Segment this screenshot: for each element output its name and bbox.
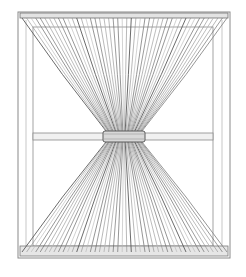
curtain-pleat-stroke <box>118 142 123 252</box>
curtain-pleat-stroke <box>68 142 114 252</box>
curtain-pleat-stroke <box>58 18 112 131</box>
curtain-rod <box>20 13 228 18</box>
curtain-pleat-stroke <box>49 142 111 252</box>
curtain-pleat-stroke <box>134 142 181 252</box>
curtain-pleat-stroke <box>139 18 209 131</box>
curtain-pleat-stroke <box>45 142 110 252</box>
curtain-pleat-stroke <box>138 18 204 131</box>
curtain-pleat-stroke <box>77 142 116 252</box>
curtain-pleat-stroke <box>118 18 123 131</box>
curtain-pleat-stroke <box>134 18 181 131</box>
curtain-pleat-stroke <box>22 142 106 252</box>
curtain-pleat-stroke <box>77 18 116 131</box>
curtain-pleat-stroke <box>49 18 111 131</box>
curtain-pleat-stroke <box>81 142 116 252</box>
curtain-pleat-stroke <box>45 18 110 131</box>
curtain-upper-fan <box>22 18 227 131</box>
curtain-tie-band <box>103 131 145 142</box>
curtain-pleat-stroke <box>40 18 109 131</box>
curtain-pleat-stroke <box>136 142 191 252</box>
curtain-pleat-stroke <box>40 142 109 252</box>
curtain-pleat-stroke <box>36 142 109 252</box>
curtain-pleat-stroke <box>58 142 112 252</box>
curtain-pleat-stroke <box>31 18 108 131</box>
curtain-pleat-stroke <box>68 18 114 131</box>
curtain-pleat-stroke <box>22 18 106 131</box>
window-curtain-drawing <box>0 0 246 277</box>
curtain-pleat-stroke <box>138 142 204 252</box>
curtain-pleat-stroke <box>27 142 107 252</box>
curtain-pleat-stroke <box>31 142 108 252</box>
curtain-lower-fan <box>22 142 227 252</box>
curtain-pleat-stroke <box>139 142 209 252</box>
curtain-pleat-stroke <box>136 18 191 131</box>
curtain-pleat-stroke <box>27 18 107 131</box>
curtain-pleat-stroke <box>81 18 116 131</box>
curtain-pleat-stroke <box>36 18 109 131</box>
